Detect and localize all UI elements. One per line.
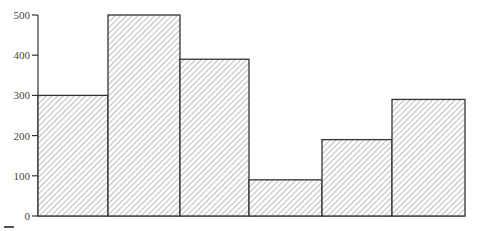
bars <box>38 15 465 216</box>
bar-chart: 0100200300400500 <box>0 0 477 231</box>
cut-off-caption-fragment <box>4 226 14 228</box>
bar-4 <box>249 180 322 216</box>
bar-6 <box>392 99 465 216</box>
y-tick-label: 0 <box>25 210 31 222</box>
bar-3 <box>180 59 249 216</box>
y-tick-label: 400 <box>14 49 31 61</box>
y-tick-label: 300 <box>14 89 31 101</box>
bar-5 <box>322 140 392 216</box>
y-tick-label: 100 <box>14 170 31 182</box>
y-tick-label: 500 <box>14 9 31 21</box>
bar-2 <box>108 15 180 216</box>
y-tick-label: 200 <box>14 130 31 142</box>
bar-1 <box>38 95 108 216</box>
